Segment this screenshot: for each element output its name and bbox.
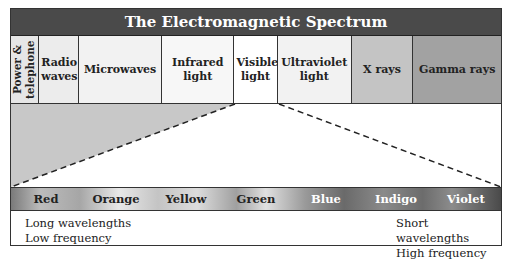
band-microwaves: Microwaves — [79, 36, 163, 103]
visible-color-bar: RedOrangeYellowGreenBlueIndigoViolet — [11, 187, 501, 211]
color-yellow: Yellow — [151, 188, 221, 210]
color-indigo: Indigo — [361, 188, 431, 210]
visible-light-funnel — [11, 104, 501, 187]
color-green: Green — [221, 188, 291, 210]
spectrum-diagram: The Electromagnetic Spectrum Power & tel… — [10, 8, 502, 246]
long-wavelength-note: Long wavelengths Low frequency — [25, 216, 131, 246]
band-visible-light: Visible light — [234, 36, 278, 103]
low-frequency-label: Low frequency — [25, 231, 131, 246]
band-power-telephone: Power & telephone — [11, 36, 39, 103]
short-wavelength-note: Short wavelengths High frequency — [396, 216, 501, 261]
band-infrared-light: Infrared light — [162, 36, 234, 103]
band-label: Radio waves — [41, 56, 75, 84]
diagram-title: The Electromagnetic Spectrum — [11, 9, 501, 36]
band-label: Microwaves — [84, 63, 156, 77]
band-gamma-rays: Gamma rays — [413, 36, 501, 103]
color-red: Red — [11, 188, 81, 210]
band-label: Power & telephone — [11, 36, 37, 103]
band-ultraviolet-light: Ultraviolet light — [278, 36, 352, 103]
spectrum-bands: Power & telephoneRadio wavesMicrowavesIn… — [11, 36, 501, 104]
color-violet: Violet — [431, 188, 501, 210]
high-frequency-label: High frequency — [396, 246, 501, 261]
band-x-rays: X rays — [352, 36, 414, 103]
band-label: Ultraviolet light — [280, 56, 348, 84]
band-label: Visible light — [237, 56, 275, 84]
color-orange: Orange — [81, 188, 151, 210]
short-wavelengths-label: Short wavelengths — [396, 216, 501, 246]
band-radio-waves: Radio waves — [39, 36, 79, 103]
band-label: X rays — [363, 63, 401, 77]
long-wavelengths-label: Long wavelengths — [25, 216, 131, 231]
wavelength-notes: Long wavelengths Low frequency Short wav… — [11, 211, 501, 247]
band-label: Gamma rays — [419, 63, 495, 77]
color-blue: Blue — [291, 188, 361, 210]
band-label: Infrared light — [165, 56, 231, 84]
